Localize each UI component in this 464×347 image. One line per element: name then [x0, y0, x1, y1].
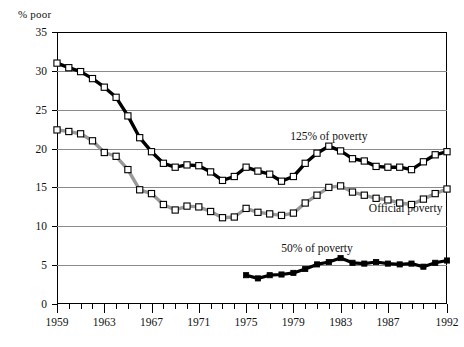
- x-axis-minor-tick: [376, 304, 377, 309]
- poverty-rate-chart: % poor 05101520253035 195919631967197119…: [0, 0, 464, 347]
- series-label-3: 50% of poverty: [281, 242, 353, 254]
- x-axis-major-tick: [57, 304, 58, 313]
- y-axis-tick-label: 20: [17, 143, 47, 155]
- x-axis-major-tick: [199, 304, 200, 313]
- x-axis-tick-label: 1979: [271, 316, 315, 328]
- y-axis-tick-mark: [52, 187, 57, 188]
- x-axis-minor-tick: [187, 304, 188, 309]
- x-axis-minor-tick: [352, 304, 353, 309]
- x-axis-minor-tick: [116, 304, 117, 309]
- x-axis-tick-label: 1963: [82, 316, 126, 328]
- x-axis-minor-tick: [175, 304, 176, 309]
- y-axis-tick-label: 5: [17, 259, 47, 271]
- series-label-1: 125% of poverty: [290, 130, 367, 142]
- gridline: [57, 71, 447, 72]
- y-axis-tick-mark: [52, 32, 57, 33]
- x-axis-major-tick: [246, 304, 247, 313]
- x-axis-minor-tick: [211, 304, 212, 309]
- x-axis-tick-label: 1983: [319, 316, 363, 328]
- x-axis-major-tick: [293, 304, 294, 313]
- x-axis-minor-tick: [140, 304, 141, 309]
- x-axis-minor-tick: [423, 304, 424, 309]
- x-axis-minor-tick: [329, 304, 330, 309]
- x-axis-tick-label: 1967: [130, 316, 174, 328]
- x-axis-tick-label: 1987: [366, 316, 410, 328]
- y-axis-tick-mark: [52, 71, 57, 72]
- x-axis-major-tick: [388, 304, 389, 313]
- axis-layer: 05101520253035 1959196319671971197519791…: [0, 0, 464, 347]
- x-axis-minor-tick: [435, 304, 436, 309]
- gridline: [57, 149, 447, 150]
- x-axis-minor-tick: [81, 304, 82, 309]
- x-axis-major-tick: [152, 304, 153, 313]
- x-axis-major-tick: [341, 304, 342, 313]
- x-axis-minor-tick: [270, 304, 271, 309]
- y-axis-tick-label: 30: [17, 65, 47, 77]
- x-axis-minor-tick: [163, 304, 164, 309]
- series-label-2: Official poverty: [369, 202, 443, 214]
- x-axis-major-tick: [447, 304, 448, 313]
- x-axis-minor-tick: [364, 304, 365, 309]
- x-axis-minor-tick: [282, 304, 283, 309]
- y-axis-tick-mark: [52, 226, 57, 227]
- x-axis-tick-label: 1959: [35, 316, 79, 328]
- x-axis-minor-tick: [412, 304, 413, 309]
- gridline: [57, 265, 447, 266]
- x-axis-major-tick: [104, 304, 105, 313]
- x-axis-tick-label: 1971: [177, 316, 221, 328]
- x-axis-minor-tick: [69, 304, 70, 309]
- x-axis-tick-label: 1992: [425, 316, 464, 328]
- x-axis-minor-tick: [128, 304, 129, 309]
- x-axis-minor-tick: [305, 304, 306, 309]
- y-axis-tick-label: 0: [17, 298, 47, 310]
- y-axis-tick-label: 15: [17, 181, 47, 193]
- x-axis-minor-tick: [317, 304, 318, 309]
- y-axis-tick-label: 35: [17, 26, 47, 38]
- gridline: [57, 226, 447, 227]
- x-axis-minor-tick: [400, 304, 401, 309]
- gridline: [57, 110, 447, 111]
- x-axis-tick-label: 1975: [224, 316, 268, 328]
- x-axis-minor-tick: [258, 304, 259, 309]
- y-axis-tick-mark: [52, 265, 57, 266]
- y-axis-tick-label: 10: [17, 220, 47, 232]
- x-axis-minor-tick: [92, 304, 93, 309]
- x-axis-minor-tick: [234, 304, 235, 309]
- gridline: [57, 187, 447, 188]
- y-axis-tick-mark: [52, 149, 57, 150]
- y-axis-tick-label: 25: [17, 104, 47, 116]
- y-axis-tick-mark: [52, 110, 57, 111]
- x-axis-minor-tick: [222, 304, 223, 309]
